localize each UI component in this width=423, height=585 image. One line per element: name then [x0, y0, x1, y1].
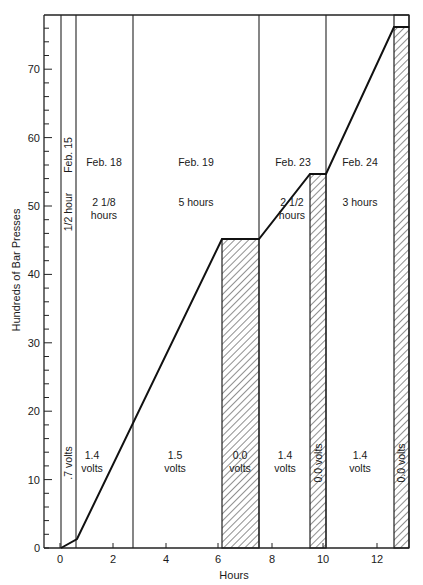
- y-tick-label: 20: [28, 405, 40, 417]
- session-date-feb15: Feb. 15: [62, 137, 74, 173]
- session-voltage-feb24-unit: volts: [349, 462, 371, 474]
- y-tick-label: 70: [28, 63, 40, 75]
- y-tick-label: 10: [28, 474, 40, 486]
- session-voltage-feb23: 1.4: [278, 449, 293, 461]
- x-tick-label: 10: [317, 553, 329, 565]
- hatched-voltage-3: 0.0 volts: [395, 443, 407, 482]
- y-tick-label: 0: [34, 542, 40, 554]
- hatched-voltage-1: 0.0: [233, 449, 248, 461]
- y-tick-label: 60: [28, 132, 40, 144]
- session-duration-feb19: 5 hours: [178, 196, 213, 208]
- session-voltage-feb18-unit: volts: [81, 462, 103, 474]
- top-box: [394, 15, 409, 27]
- session-duration-feb23-unit: hours: [279, 209, 305, 221]
- x-axis-label: Hours: [219, 569, 249, 581]
- session-date-feb23: Feb. 23: [275, 156, 311, 168]
- session-date-feb19: Feb. 19: [178, 156, 214, 168]
- x-tick-label: 2: [110, 553, 116, 565]
- session-voltage-feb19: 1.5: [168, 449, 183, 461]
- session-duration-feb18-unit: hours: [91, 209, 117, 221]
- y-tick-labels: 0 10 20 30 40 50 60 70: [28, 63, 40, 554]
- x-tick-label: 0: [57, 553, 63, 565]
- x-tick-label: 4: [163, 553, 169, 565]
- x-tick-label: 6: [215, 553, 221, 565]
- session-duration-feb18: 2 1/8: [92, 196, 116, 208]
- y-tick-label: 50: [28, 200, 40, 212]
- x-tick-labels: 0 2 4 6 8 10 12: [57, 553, 383, 565]
- cumulative-bar-press-chart: 0 10 20 30 40 50 60 70 0 2 4 6 8 10 12 H…: [0, 0, 423, 585]
- session-duration-feb23: 2 1/2: [280, 196, 304, 208]
- session-date-feb18: Feb. 18: [86, 156, 122, 168]
- session-voltage-feb23-unit: volts: [274, 462, 296, 474]
- session-duration-feb15: 1/2 hour: [62, 192, 74, 231]
- hatched-region-2: [310, 174, 326, 548]
- session-duration-feb24: 3 hours: [342, 196, 377, 208]
- x-tick-label: 12: [371, 553, 383, 565]
- x-ticks: [60, 543, 377, 548]
- y-axis-label: Hundreds of Bar Presses: [10, 208, 22, 331]
- session-voltage-feb15: .7 volts: [62, 446, 74, 479]
- hatched-voltage-2: 0.0 volts: [312, 443, 324, 482]
- x-tick-label: 8: [269, 553, 275, 565]
- y-tick-label: 30: [28, 337, 40, 349]
- hatched-voltage-1-unit: volts: [229, 462, 251, 474]
- y-tick-label: 40: [28, 268, 40, 280]
- session-voltage-feb19-unit: volts: [164, 462, 186, 474]
- hatched-region-1: [222, 239, 259, 548]
- session-voltage-feb18: 1.4: [85, 449, 100, 461]
- session-date-feb24: Feb. 24: [342, 156, 378, 168]
- session-voltage-feb24: 1.4: [353, 449, 368, 461]
- y-ticks: [44, 28, 52, 548]
